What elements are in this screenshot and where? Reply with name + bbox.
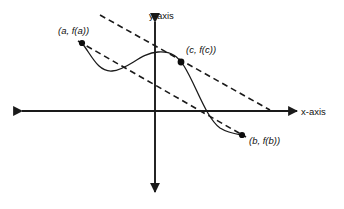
point-b-label: (b, f(b)) [249, 135, 280, 146]
figure-background [0, 0, 344, 209]
mean-value-theorem-figure: (a, f(a)) (c, f(c)) (b, f(b)) x-axis y-a… [0, 0, 344, 209]
y-axis-label: y-axis [149, 10, 174, 21]
point-c-marker [178, 59, 185, 66]
point-c-label: (c, f(c)) [186, 44, 216, 55]
x-axis-label: x-axis [301, 106, 326, 117]
point-b-marker [239, 132, 245, 138]
point-a-marker [79, 40, 85, 46]
point-a-label: (a, f(a)) [58, 25, 89, 36]
